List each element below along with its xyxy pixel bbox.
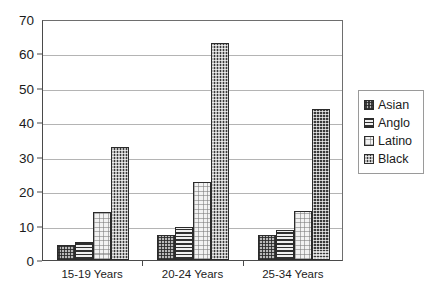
bar-asian-2 [157, 235, 175, 260]
y-tick-label: 20 [19, 185, 34, 200]
bar-anglo-2 [175, 227, 193, 260]
x-tick-label: 15-19 Years [61, 268, 122, 280]
bar-group [244, 21, 344, 260]
bar-asian-1 [57, 245, 75, 260]
legend-swatch-latino-icon [364, 136, 374, 146]
y-tick-label: 30 [19, 150, 34, 165]
bar-black-1 [111, 147, 129, 260]
bar-anglo-3 [276, 230, 294, 260]
legend-swatch-asian-icon [364, 100, 374, 110]
y-tick-label: 10 [19, 219, 34, 234]
bar-latino-3 [294, 211, 312, 260]
bar-black-2 [211, 43, 229, 260]
legend-label: Asian [378, 99, 409, 112]
legend-label: Latino [378, 135, 412, 148]
x-tick-label: 25-34 Years [262, 268, 323, 280]
y-tick-label: 40 [19, 116, 34, 131]
legend-swatch-anglo-icon [364, 118, 374, 128]
bar-latino-1 [93, 212, 111, 260]
x-axis: 15-19 Years20-24 Years25-34 Years [42, 261, 343, 289]
legend-label: Black [378, 153, 409, 166]
legend-swatch-black-icon [364, 154, 374, 164]
chart-legend: AsianAngloLatinoBlack [358, 90, 424, 174]
x-tick-mark [142, 261, 143, 266]
bar-anglo-1 [75, 242, 93, 260]
bar-asian-3 [258, 235, 276, 260]
bar-black-3 [312, 109, 330, 260]
y-tick-label: 60 [19, 47, 34, 62]
bar-chart: 010203040506070 15-19 Years20-24 Years25… [0, 0, 429, 289]
y-tick-label: 50 [19, 81, 34, 96]
x-tick-label: 20-24 Years [162, 268, 223, 280]
bars-layer [43, 21, 342, 260]
bar-latino-2 [193, 182, 211, 260]
legend-item-asian: Asian [364, 96, 419, 114]
bar-group [143, 21, 243, 260]
y-tick-label: 0 [26, 254, 34, 269]
y-tick-label: 70 [19, 13, 34, 28]
legend-label: Anglo [378, 117, 410, 130]
legend-item-black: Black [364, 150, 419, 168]
x-tick-mark [243, 261, 244, 266]
bar-group [43, 21, 143, 260]
legend-item-latino: Latino [364, 132, 419, 150]
plot-area [42, 20, 343, 261]
y-axis: 010203040506070 [0, 0, 42, 289]
legend-item-anglo: Anglo [364, 114, 419, 132]
